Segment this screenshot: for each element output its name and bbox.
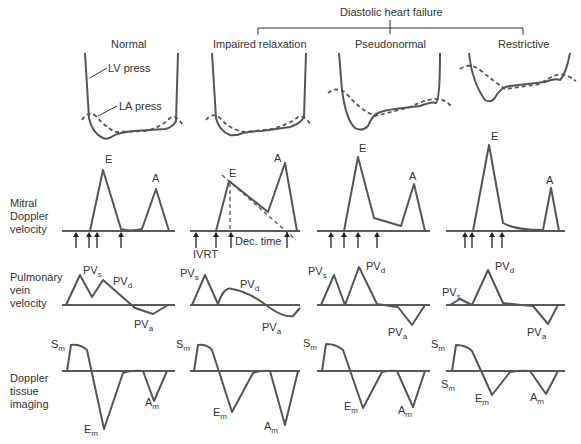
lv-press-label: LV press [108, 62, 151, 74]
pulmonary-restrictive: PVs PVd PVa [442, 260, 565, 341]
svg-text:velocity: velocity [10, 297, 47, 309]
svg-text:Pulmonary: Pulmonary [10, 271, 63, 283]
mitral-restrictive: E A [446, 130, 565, 248]
svg-text:PVa: PVa [262, 321, 282, 336]
row-label-mitral: Mitral Doppler velocity [10, 197, 49, 235]
svg-text:Doppler: Doppler [10, 210, 49, 222]
column-title-pseudonormal: Pseudonormal [355, 38, 426, 50]
pulmonary-impaired-relaxation: PVs PVd PVa [180, 267, 300, 336]
svg-text:Em: Em [84, 423, 98, 438]
svg-text:imaging: imaging [10, 398, 49, 410]
svg-text:PVs: PVs [442, 286, 461, 301]
svg-text:Sm: Sm [431, 338, 445, 353]
svg-text:Sm: Sm [303, 337, 317, 352]
svg-text:E: E [359, 142, 366, 154]
svg-text:PVd: PVd [495, 260, 514, 275]
svg-text:PVa: PVa [388, 326, 408, 341]
svg-text:PVa: PVa [527, 326, 547, 341]
svg-text:E: E [105, 153, 112, 165]
tissue-restrictive: Sm Sm Em Am [431, 338, 565, 407]
svg-text:Em: Em [213, 406, 227, 421]
svg-text:PVd: PVd [113, 275, 132, 290]
column-title-restrictive: Restrictive [498, 38, 549, 50]
svg-text:PVa: PVa [134, 318, 154, 333]
svg-text:tissue: tissue [10, 385, 39, 397]
mitral-normal: E A [62, 153, 175, 248]
svg-text:A: A [152, 172, 160, 184]
pressure-pseudonormal [328, 53, 452, 130]
row-label-pulmonary: Pulmonary vein velocity [10, 271, 63, 309]
svg-text:vein: vein [10, 284, 30, 296]
svg-text:velocity: velocity [10, 223, 47, 235]
svg-text:A: A [409, 170, 417, 182]
pulmonary-normal: PVs PVd PVa [62, 264, 175, 333]
svg-text:Sm: Sm [176, 338, 190, 353]
tissue-pseudonormal: Sm Em Am [303, 337, 430, 419]
column-title-impaired-relaxation: Impaired relaxation [213, 38, 307, 50]
svg-text:Em: Em [344, 400, 358, 415]
ivrt-label: IVRT [193, 248, 218, 260]
mitral-impaired-relaxation: E A IVRT Dec. time [190, 152, 300, 260]
la-press-label: LA press [119, 100, 162, 112]
diastolic-bracket: Diastolic heart failure [258, 6, 523, 35]
svg-text:Sm: Sm [441, 378, 455, 393]
dec-time-label: Dec. time [235, 235, 281, 247]
svg-text:A: A [546, 174, 554, 186]
svg-text:Am: Am [530, 391, 544, 406]
svg-text:PVd: PVd [240, 278, 259, 293]
pressure-restrictive [460, 53, 576, 101]
svg-text:PVs: PVs [308, 265, 327, 280]
tissue-normal: Sm Em Am [51, 338, 175, 438]
svg-text:PVd: PVd [366, 260, 385, 275]
svg-text:E: E [229, 167, 236, 179]
svg-text:Doppler: Doppler [10, 372, 49, 384]
diastolic-function-diagram: Diastolic heart failure Normal Impaired … [0, 0, 581, 444]
svg-text:A: A [274, 152, 282, 164]
svg-text:Em: Em [475, 392, 489, 407]
svg-text:Am: Am [264, 420, 278, 435]
row-label-tissue: Doppler tissue imaging [10, 372, 49, 410]
svg-text:Am: Am [145, 396, 159, 411]
svg-text:Am: Am [398, 404, 412, 419]
svg-text:Sm: Sm [51, 338, 65, 353]
svg-text:Mitral: Mitral [10, 197, 37, 209]
tissue-impaired-relaxation: Sm Em Am [176, 338, 300, 435]
pressure-impaired-relaxation [206, 53, 310, 135]
group-label: Diastolic heart failure [340, 6, 443, 18]
svg-text:PVs: PVs [180, 267, 199, 282]
mitral-pseudonormal: E A [317, 142, 430, 248]
pulmonary-pseudonormal: PVs PVd PVa [308, 260, 430, 341]
svg-text:PVs: PVs [83, 264, 102, 279]
column-title-normal: Normal [111, 38, 146, 50]
svg-text:E: E [491, 130, 498, 142]
pressure-normal: LV press LA press [82, 53, 182, 139]
